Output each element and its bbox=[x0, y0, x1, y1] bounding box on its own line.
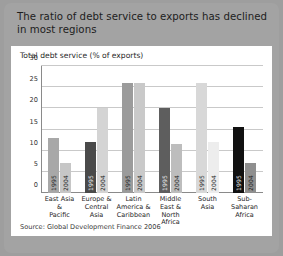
x-axis-label-line: Africa bbox=[227, 212, 262, 220]
x-axis-category-label: SouthAsia bbox=[189, 196, 226, 227]
bar[interactable]: 1995 bbox=[159, 108, 170, 193]
x-axis-label-line: East Asia & bbox=[42, 196, 77, 212]
bar[interactable]: 1995 bbox=[196, 83, 207, 193]
x-axis-label-line: Asia bbox=[190, 204, 225, 212]
bar-group: 19952004 bbox=[78, 66, 115, 193]
x-axis-label-line: Caribbean bbox=[116, 212, 151, 220]
x-axis-label-line: Pacific bbox=[42, 212, 77, 220]
bar-groups: 1995200419952004199520041995200419952004… bbox=[41, 66, 263, 193]
bar[interactable]: 2004 bbox=[134, 83, 145, 193]
figure-card: The ratio of debt service to exports has… bbox=[4, 3, 279, 253]
y-axis-tick-label: 0 bbox=[34, 181, 38, 189]
y-axis-tick-label: 25 bbox=[30, 75, 38, 83]
plot-area: 051015202530 199520041995200419952004199… bbox=[41, 66, 263, 193]
source-note: Source: Global Development Finance 2006 bbox=[20, 223, 161, 231]
bar-year-label: 2004 bbox=[136, 175, 143, 191]
x-axis-label-line: Asia bbox=[79, 212, 114, 220]
bar-year-label: 2004 bbox=[99, 175, 106, 191]
bar-year-label: 1995 bbox=[198, 175, 205, 191]
bar[interactable]: 1995 bbox=[122, 83, 133, 193]
bar-year-label: 2004 bbox=[210, 175, 217, 191]
y-axis-tick-label: 10 bbox=[30, 139, 38, 147]
bar-year-label: 2004 bbox=[247, 175, 254, 191]
bar-year-label: 1995 bbox=[124, 175, 131, 191]
chart-subtitle: Total debt service (% of exports) bbox=[20, 51, 143, 60]
y-axis-tick-label: 15 bbox=[30, 118, 38, 126]
bar[interactable]: 2004 bbox=[171, 144, 182, 193]
bar-group: 19952004 bbox=[41, 66, 78, 193]
y-axis-tick-label: 20 bbox=[30, 96, 38, 104]
y-axis-tick-label: 30 bbox=[30, 54, 38, 62]
bar-year-label: 2004 bbox=[62, 175, 69, 191]
bar-group: 19952004 bbox=[226, 66, 263, 193]
bar[interactable]: 1995 bbox=[233, 127, 244, 193]
bar-group: 19952004 bbox=[115, 66, 152, 193]
bar[interactable]: 2004 bbox=[60, 163, 71, 193]
y-axis-tick-label: 5 bbox=[34, 160, 38, 168]
bar-year-label: 1995 bbox=[161, 175, 168, 191]
bar[interactable]: 1995 bbox=[85, 142, 96, 193]
bar[interactable]: 2004 bbox=[97, 108, 108, 193]
bar[interactable]: 2004 bbox=[208, 142, 219, 193]
figure-header-title: The ratio of debt service to exports has… bbox=[4, 3, 279, 42]
x-axis-category-label: Sub-SaharanAfrica bbox=[226, 196, 263, 227]
x-axis-label-line: Middle East & bbox=[153, 196, 188, 212]
bar-year-label: 1995 bbox=[50, 175, 57, 191]
bar-year-label: 1995 bbox=[87, 175, 94, 191]
bar-year-label: 2004 bbox=[173, 175, 180, 191]
bar[interactable]: 1995 bbox=[48, 138, 59, 193]
bar-group: 19952004 bbox=[189, 66, 226, 193]
bar-year-label: 1995 bbox=[235, 175, 242, 191]
chart-panel: Total debt service (% of exports) 051015… bbox=[11, 46, 272, 236]
bar[interactable]: 2004 bbox=[245, 163, 256, 193]
bar-group: 19952004 bbox=[152, 66, 189, 193]
